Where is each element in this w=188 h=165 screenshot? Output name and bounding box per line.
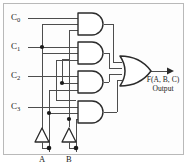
inverter-a xyxy=(35,128,49,142)
output-caption: Output xyxy=(140,85,186,93)
and-gate-1 xyxy=(78,42,103,64)
output-expression: F(A, B, C) xyxy=(147,75,180,84)
junction-dot xyxy=(47,146,52,151)
logic-diagram-figure: C0 C1 C2 C3 A B F(A, B, C) Output xyxy=(0,0,188,165)
junction-dot xyxy=(60,81,64,85)
junction-dot xyxy=(47,111,51,115)
and-gate-0 xyxy=(78,13,103,35)
junction-dot xyxy=(67,117,71,121)
junction-dot xyxy=(74,146,79,151)
input-label-c3: C3 xyxy=(11,102,20,111)
and-gate-2 xyxy=(78,71,103,93)
input-label-a: A xyxy=(39,155,45,164)
output-arrowhead xyxy=(167,68,174,75)
input-label-b: B xyxy=(66,155,72,164)
input-label-c2: C2 xyxy=(11,71,20,80)
and-gate-3 xyxy=(78,101,103,123)
output-label: F(A, B, C) Output xyxy=(140,76,186,92)
input-label-c0: C0 xyxy=(11,13,20,22)
inverter-b xyxy=(62,128,76,142)
junction-dot xyxy=(40,45,44,49)
input-label-c1: C1 xyxy=(11,42,20,51)
